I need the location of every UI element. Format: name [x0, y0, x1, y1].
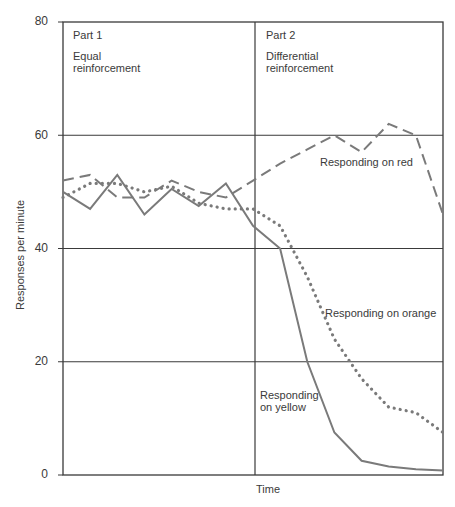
part2-sublabel-2: reinforcement	[266, 62, 333, 75]
y-tick-60: 60	[22, 128, 48, 142]
annotation-yellow-2: on yellow	[260, 401, 306, 414]
part1-sublabel-2: reinforcement	[73, 62, 140, 75]
part1-label: Part 1	[73, 29, 102, 42]
line-chart	[0, 0, 455, 507]
series-lines	[63, 124, 443, 471]
x-axis-label: Time	[256, 483, 280, 496]
y-tick-80: 80	[22, 14, 48, 28]
y-axis-label: Responses per minute	[14, 200, 26, 310]
y-tick-20: 20	[22, 354, 48, 368]
annotation-red: Responding on red	[320, 156, 413, 169]
part2-label: Part 2	[266, 29, 295, 42]
y-tick-0: 0	[22, 467, 48, 481]
annotation-orange: Responding on orange	[325, 307, 436, 320]
plot-frame	[58, 22, 443, 475]
series-solid-line	[63, 175, 443, 471]
series-dashed-line	[63, 124, 443, 215]
